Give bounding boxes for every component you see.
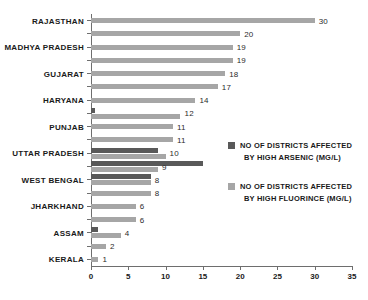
bar-fluoride (91, 18, 315, 23)
x-tick-mark (277, 266, 278, 270)
bar-fluoride (91, 58, 233, 63)
bar-value-label: 6 (140, 215, 145, 224)
bar-row: 12 (91, 107, 352, 120)
bar-fluoride (91, 204, 136, 209)
x-tick-mark (166, 266, 167, 270)
x-tick-mark (128, 266, 129, 270)
category-label: MADHYA PRADESH (4, 43, 84, 52)
category-label: RAJASTHAN (32, 16, 84, 25)
category-label: JHARKHAND (31, 202, 84, 211)
bar-row: 17 (91, 80, 352, 93)
bar-fluoride (91, 233, 121, 238)
bar-arsenic (91, 161, 203, 166)
bar-value-label: 8 (155, 175, 160, 184)
bar-value-label: 1 (102, 255, 107, 264)
bar-fluoride (91, 71, 225, 76)
bar-value-label: 11 (177, 122, 186, 131)
legend-entry: NO OF DISTRICTS AFFECTEDBY HIGH FLUORINC… (228, 181, 368, 205)
bar-fluoride (91, 45, 233, 50)
bar-row: 2 (91, 239, 352, 252)
legend-swatch-fluoride (228, 183, 235, 190)
bar-value-label: 6 (140, 202, 145, 211)
bar-chart: RAJASTHANMADHYA PRADESHGUJARATHARYANAPUN… (0, 0, 368, 300)
bar-row: 18 (91, 67, 352, 80)
bar-value-label: 10 (170, 149, 179, 158)
bar-fluoride (91, 244, 106, 249)
bar-fluoride (91, 154, 166, 159)
legend-label-line1: NO OF DISTRICTS AFFECTED (240, 181, 368, 193)
x-tick-label: 20 (236, 272, 245, 281)
bar-value-label: 4 (125, 228, 130, 237)
bar-fluoride (91, 167, 158, 172)
x-tick-label: 35 (348, 272, 357, 281)
legend-label-line1: NO OF DISTRICTS AFFECTED (240, 140, 368, 152)
legend-label-line2: BY HIGH FLUORINCE (MG/L) (244, 193, 368, 205)
bar-fluoride (91, 137, 173, 142)
x-tick-label: 25 (273, 272, 282, 281)
bar-value-label: 19 (237, 56, 246, 65)
bar-row: 30 (91, 14, 352, 27)
x-tick-mark (240, 266, 241, 270)
x-tick-label: 10 (161, 272, 170, 281)
bar-arsenic (91, 174, 151, 179)
bar-value-label: 30 (319, 16, 328, 25)
bar-value-label: 14 (199, 96, 208, 105)
bar-arsenic (91, 148, 158, 153)
bar-value-label: 2 (110, 242, 115, 251)
bar-value-label: 20 (244, 29, 253, 38)
bar-row: 19 (91, 41, 352, 54)
x-tick-label: 30 (310, 272, 319, 281)
bar-value-label: 12 (184, 109, 193, 118)
bar-value-label: 17 (222, 82, 231, 91)
category-label: GUJARAT (44, 69, 84, 78)
bar-row: 4 (91, 226, 352, 239)
bar-fluoride (91, 180, 151, 185)
x-tick-label: 15 (198, 272, 207, 281)
bar-value-label: 18 (229, 69, 238, 78)
bar-fluoride (91, 217, 136, 222)
category-label: KERALA (49, 255, 84, 264)
bar-fluoride (91, 84, 218, 89)
legend-swatch-arsenic (228, 142, 235, 149)
bar-fluoride (91, 31, 240, 36)
category-axis-labels: RAJASTHANMADHYA PRADESHGUJARATHARYANAPUN… (0, 14, 88, 266)
bar-fluoride (91, 114, 180, 119)
category-label: PUNJAB (49, 122, 84, 131)
x-tick-mark (203, 266, 204, 270)
legend-label-line2: BY HIGH ARSENIC (MG/L) (244, 152, 368, 164)
bar-row: 1 (91, 253, 352, 266)
bar-row: 14 (91, 94, 352, 107)
x-tick-label: 0 (89, 272, 93, 281)
x-tick-label: 5 (126, 272, 130, 281)
category-label: WEST BENGAL (22, 175, 84, 184)
bar-row: 11 (91, 120, 352, 133)
bar-fluoride (91, 124, 173, 129)
chart-legend: NO OF DISTRICTS AFFECTEDBY HIGH ARSENIC … (228, 140, 368, 222)
x-tick-mark (352, 266, 353, 270)
bar-row: 19 (91, 54, 352, 67)
bar-value-label: 8 (155, 189, 160, 198)
bar-fluoride (91, 257, 98, 262)
bar-value-label: 9 (162, 162, 167, 171)
bar-fluoride (91, 98, 195, 103)
value-axis-ticks: 05101520253035 (91, 266, 352, 292)
category-label: UTTAR PRADESH (12, 149, 84, 158)
bar-fluoride (91, 191, 151, 196)
category-label: HARYANA (43, 96, 84, 105)
bar-value-label: 11 (177, 135, 186, 144)
bar-value-label: 19 (237, 43, 246, 52)
bar-row: 20 (91, 27, 352, 40)
bar-arsenic (91, 227, 98, 232)
x-tick-mark (315, 266, 316, 270)
legend-entry: NO OF DISTRICTS AFFECTEDBY HIGH ARSENIC … (228, 140, 368, 164)
x-tick-mark (91, 266, 92, 270)
category-label: ASSAM (54, 228, 84, 237)
bar-arsenic (91, 108, 95, 113)
